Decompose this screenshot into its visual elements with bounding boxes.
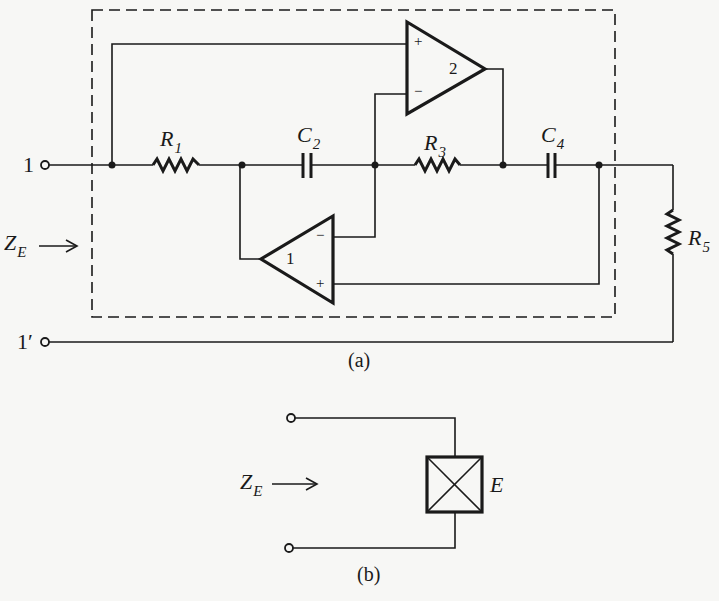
resistor-r5 xyxy=(667,210,679,254)
resistor-r3 xyxy=(415,159,460,171)
ze-label-b: ZE xyxy=(240,471,262,493)
terminal-1-label: 1 xyxy=(23,154,34,176)
terminal-1-prime-label: 1′ xyxy=(17,331,33,353)
circuit-diagram xyxy=(0,0,719,601)
caption-a: (a) xyxy=(348,350,370,370)
caption-b: (b) xyxy=(357,564,380,584)
element-e-label: E xyxy=(490,474,503,496)
opamp-1-plus: + xyxy=(316,276,324,291)
r3-label: R3 xyxy=(424,132,446,154)
opamp-1-minus: − xyxy=(316,228,324,243)
r5-label: R5 xyxy=(688,227,710,249)
r1-label: R1 xyxy=(160,128,182,150)
c4-label: C4 xyxy=(541,124,564,146)
opamp-1-label: 1 xyxy=(286,250,295,267)
opamp-2-label: 2 xyxy=(449,60,458,77)
terminal-1-prime xyxy=(41,338,49,346)
c2-label: C2 xyxy=(297,124,320,146)
ze-label-a: ZE xyxy=(4,232,26,254)
terminal-1 xyxy=(41,161,49,169)
resistor-r1 xyxy=(153,159,199,171)
terminal-b-top xyxy=(287,414,295,422)
opamp-2-plus: + xyxy=(414,34,422,49)
terminal-b-bottom xyxy=(285,544,293,552)
opamp-2-minus: − xyxy=(414,84,422,99)
